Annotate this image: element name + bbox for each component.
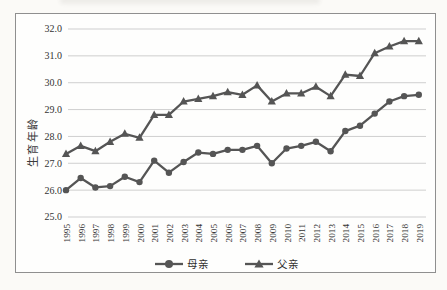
svg-text:31.0: 31.0 <box>45 50 63 61</box>
page: 25.026.027.028.029.030.031.032.019951996… <box>0 0 447 290</box>
svg-text:25.0: 25.0 <box>45 211 63 222</box>
x-tick-labels: 1995199619971998199920002001200220032004… <box>62 224 425 243</box>
svg-text:28.0: 28.0 <box>45 131 63 142</box>
svg-text:32.0: 32.0 <box>45 23 63 34</box>
svg-text:2012: 2012 <box>312 224 322 243</box>
svg-text:2008: 2008 <box>253 224 263 243</box>
svg-text:1998: 1998 <box>106 224 116 243</box>
svg-text:1996: 1996 <box>77 224 87 243</box>
svg-text:1999: 1999 <box>121 224 131 243</box>
svg-text:1997: 1997 <box>91 224 101 243</box>
mother-circle-marker-icon <box>153 258 185 270</box>
y-tick-labels: 25.026.027.028.029.030.031.032.0 <box>45 23 63 222</box>
svg-text:2018: 2018 <box>400 224 410 243</box>
svg-text:2001: 2001 <box>150 224 160 243</box>
legend-label-mother: 母亲 <box>187 256 209 271</box>
svg-text:2010: 2010 <box>283 224 293 243</box>
legend-label-father: 父亲 <box>277 256 299 271</box>
svg-text:2004: 2004 <box>194 224 204 243</box>
legend-item-father: 父亲 <box>243 256 299 271</box>
svg-text:30.0: 30.0 <box>45 77 63 88</box>
father-triangle-marker-icon <box>243 258 275 270</box>
chart-frame: 25.026.027.028.029.030.031.032.019951996… <box>15 13 436 273</box>
svg-text:2003: 2003 <box>180 224 190 243</box>
cropped-text-remnant <box>60 0 320 4</box>
series-father <box>62 37 423 157</box>
svg-text:26.0: 26.0 <box>45 185 63 196</box>
svg-text:2005: 2005 <box>209 224 219 243</box>
line-chart: 25.026.027.028.029.030.031.032.019951996… <box>16 14 435 272</box>
svg-text:2006: 2006 <box>224 224 234 243</box>
chart-legend: 母亲 父亲 <box>16 256 435 271</box>
legend-item-mother: 母亲 <box>153 256 209 271</box>
y-axis-title: 生育年龄 <box>24 100 40 184</box>
svg-text:2013: 2013 <box>327 224 337 243</box>
svg-text:2015: 2015 <box>356 224 366 243</box>
svg-text:2017: 2017 <box>385 224 395 243</box>
svg-text:2019: 2019 <box>415 224 425 243</box>
svg-text:2011: 2011 <box>297 224 307 242</box>
svg-text:2016: 2016 <box>371 224 381 243</box>
svg-text:27.0: 27.0 <box>45 158 63 169</box>
svg-text:2014: 2014 <box>341 224 351 243</box>
svg-text:1995: 1995 <box>62 224 72 243</box>
series-mother <box>63 92 422 194</box>
svg-text:2007: 2007 <box>238 224 248 243</box>
svg-text:2000: 2000 <box>136 224 146 243</box>
svg-text:29.0: 29.0 <box>45 104 63 115</box>
svg-text:2009: 2009 <box>268 224 278 243</box>
svg-text:2002: 2002 <box>165 224 175 243</box>
